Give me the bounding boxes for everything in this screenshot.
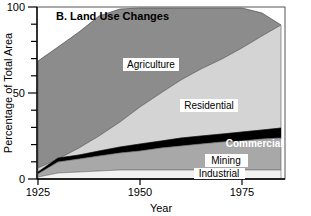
y-tick-label-50: 50	[13, 87, 25, 99]
band-label-residential-group: Residential	[180, 99, 238, 112]
y-axis-title: Percentage of Total Area	[2, 32, 14, 153]
land-use-changes-chart: 100 50 0 1925 1950 1975 Year Percentage …	[0, 0, 311, 216]
x-tick-label-1950: 1950	[128, 186, 152, 198]
x-tick-label-1925: 1925	[26, 186, 50, 198]
chart-canvas: 100 50 0 1925 1950 1975 Year Percentage …	[0, 0, 311, 216]
x-axis-ticks	[38, 179, 242, 185]
x-tick-label-1975: 1975	[230, 186, 254, 198]
band-label-industrial: Industrial	[199, 168, 240, 179]
band-label-commercial: Commercial	[226, 138, 283, 149]
band-label-agriculture-group: Agriculture	[123, 58, 179, 71]
x-axis-title: Year	[150, 202, 173, 214]
chart-title: B. Land Use Changes	[56, 10, 169, 22]
band-label-agriculture: Agriculture	[127, 59, 175, 70]
band-label-residential: Residential	[184, 100, 233, 111]
band-label-mining: Mining	[211, 155, 240, 166]
band-label-industrial-group: Industrial	[194, 168, 245, 179]
y-tick-label-0: 0	[19, 173, 25, 185]
band-label-mining-group: Mining	[205, 154, 248, 167]
y-tick-label-100: 100	[7, 1, 25, 13]
band-label-commercial-group: Commercial	[226, 138, 283, 149]
y-axis-ticks	[28, 7, 37, 179]
